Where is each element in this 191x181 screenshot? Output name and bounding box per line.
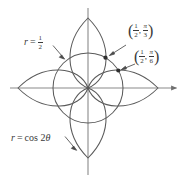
fraction-r-one-half: 12	[139, 49, 145, 65]
leader-arrowhead-point-pi6	[121, 66, 126, 69]
leader-arrowhead-circle-label	[59, 55, 64, 59]
label-point-pi-over-6: (12,π6)	[134, 49, 159, 65]
fraction-one-half: 12	[38, 35, 44, 51]
fraction-denominator: 2	[133, 32, 139, 39]
polar-plot-figure: r=12 (12,π3) (12,π6) r=cos2θ	[0, 0, 191, 181]
leader-arrowhead-rose-label	[71, 146, 76, 150]
leader-line-circle-label	[53, 46, 62, 57]
polar-plot-canvas	[0, 0, 191, 181]
fraction-denominator: 2	[38, 44, 44, 51]
fraction-numerator: 1	[38, 35, 44, 42]
leader-line-point-pi3	[113, 45, 127, 54]
label-rose-theta: θ	[45, 132, 50, 143]
label-rose-equals: =	[15, 132, 25, 143]
fraction-numerator: 1	[139, 49, 145, 56]
fraction-numerator: 1	[133, 23, 139, 30]
point-marker-pi-over-6	[116, 68, 120, 72]
close-paren: )	[154, 52, 159, 62]
label-point-pi-over-3: (12,π3)	[128, 23, 153, 39]
label-circle-equation: r=12	[24, 35, 43, 51]
label-rose-equation: r=cos2θ	[11, 133, 50, 143]
fraction-r-one-half: 12	[133, 23, 139, 39]
leader-arrowhead-point-pi3	[109, 52, 114, 56]
fraction-denominator: 2	[139, 58, 145, 65]
point-marker-pi-over-3	[103, 56, 107, 60]
label-circle-equals: =	[28, 36, 38, 47]
leader-line-rose-label	[65, 137, 74, 148]
close-paren: )	[148, 26, 153, 36]
label-rose-cos: cos	[25, 132, 38, 143]
